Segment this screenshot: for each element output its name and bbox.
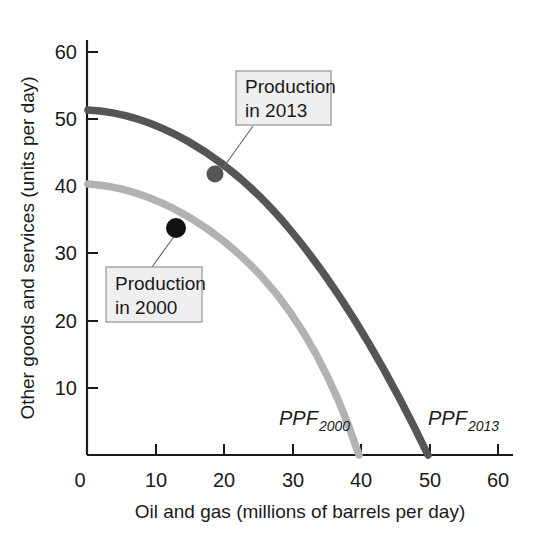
callout-2013-line1: Production <box>245 76 336 97</box>
ppf-chart-figure: 60 50 40 30 20 10 0 10 20 30 40 50 60 Oi… <box>0 0 534 533</box>
y-tick-label-40: 40 <box>55 175 77 197</box>
callout-production-2000: Production in 2000 <box>106 267 206 322</box>
ppf-2013-label-sub: 2013 <box>467 418 499 434</box>
ppf-2013-label: PPF 2013 <box>428 407 499 434</box>
y-axis-ticks <box>87 52 98 388</box>
production-2013-point[interactable] <box>207 166 224 183</box>
y-axis-tick-labels: 60 50 40 30 20 10 <box>55 41 77 399</box>
callout-2013-line2: in 2013 <box>245 100 307 121</box>
x-tick-label-40: 40 <box>350 469 372 491</box>
ppf-2000-label-sub: 2000 <box>318 418 350 434</box>
callout-2000-line2: in 2000 <box>115 297 177 318</box>
production-2000-point[interactable] <box>166 218 186 238</box>
callout-production-2013: Production in 2013 <box>236 71 336 125</box>
y-axis-title: Other goods and services (units per day) <box>17 76 38 419</box>
ppf-2000-label-main: PPF <box>279 407 320 429</box>
y-tick-label-60: 60 <box>55 41 77 63</box>
callout-2000-line1: Production <box>115 273 206 294</box>
y-tick-label-20: 20 <box>55 310 77 332</box>
chart-canvas: 60 50 40 30 20 10 0 10 20 30 40 50 60 Oi… <box>0 0 534 533</box>
ppf-2013-label-main: PPF <box>428 407 469 429</box>
y-tick-label-10: 10 <box>55 377 77 399</box>
callout-2013-leader-line <box>218 126 253 175</box>
x-tick-label-0: 0 <box>74 469 85 491</box>
y-tick-label-50: 50 <box>55 108 77 130</box>
y-tick-label-30: 30 <box>55 242 77 264</box>
x-axis-title: Oil and gas (millions of barrels per day… <box>135 501 466 522</box>
x-axis-ticks <box>156 444 498 455</box>
x-tick-label-10: 10 <box>145 469 167 491</box>
x-tick-label-30: 30 <box>282 469 304 491</box>
x-axis-tick-labels: 0 10 20 30 40 50 60 <box>74 469 509 491</box>
x-tick-label-50: 50 <box>419 469 441 491</box>
x-tick-label-20: 20 <box>213 469 235 491</box>
x-tick-label-60: 60 <box>487 469 509 491</box>
